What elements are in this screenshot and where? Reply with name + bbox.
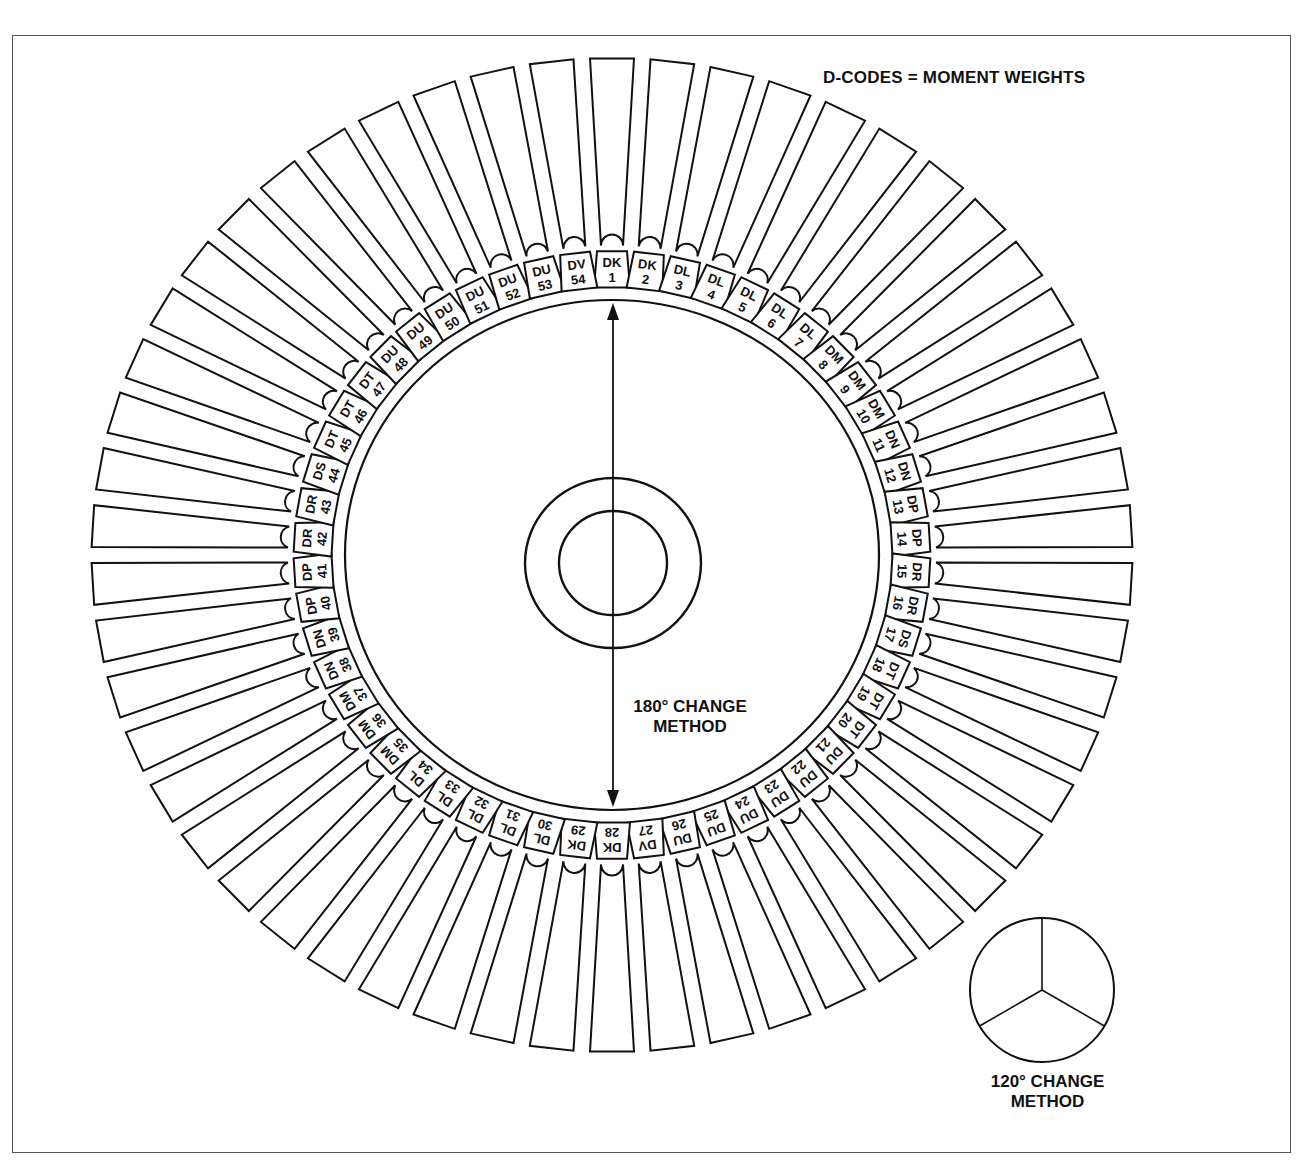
inset-method-line2: METHOD [960,1092,1135,1112]
blade [590,864,634,1051]
blade [935,505,1133,547]
blade-label: DP41 [299,561,330,581]
blade [590,58,634,245]
fan-blade-wheel: DK1DK2DL3DL4DL5DL6DL7DM8DM9DM10DN11DN12D… [0,0,1301,1175]
inset-method-label: 120° CHANGE METHOD [960,1072,1135,1112]
center-method-label: 180° CHANGE METHOD [600,697,780,737]
inset-120-circle-icon [970,918,1114,1062]
center-method-line1: 180° CHANGE [600,697,780,717]
blade-label: DK28 [602,825,621,855]
blade-label: DP14 [894,529,925,549]
inset-method-line1: 120° CHANGE [960,1072,1135,1092]
blade [935,563,1133,605]
blade [92,505,290,547]
blade [92,563,290,605]
center-method-line2: METHOD [600,717,780,737]
